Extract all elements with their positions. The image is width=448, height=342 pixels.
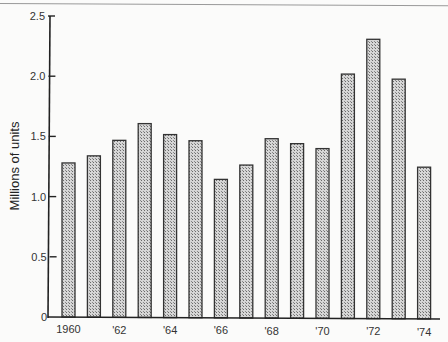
bar-1961 [87,156,100,317]
bar-1974 [418,167,431,319]
bar-1970 [316,149,329,319]
bar-1972 [367,39,380,318]
y-tick-label: 1.0 [31,191,46,203]
bar-1966 [214,179,227,317]
bar-1971 [341,74,354,318]
x-tick-label: '70 [315,325,329,337]
y-axis-label: Millions of units [7,121,22,210]
bar-1973 [392,79,405,319]
x-tick-label: '62 [112,324,126,336]
x-axis: 1960'62'64'66'68'70'72'74 [48,317,440,338]
bar-1960 [62,163,75,317]
x-tick-label: '64 [163,324,177,336]
y-tick-label: 2.0 [30,70,45,82]
x-tick-label: '66 [214,324,228,336]
y-tick-label: 2.5 [30,10,45,22]
y-tick-label: 0.5 [31,251,46,263]
bar-1969 [291,144,304,319]
bar-1962 [113,140,126,317]
x-tick-label: '74 [417,326,431,338]
bar-1964 [164,135,177,318]
y-axis-line [48,16,50,318]
bar-chart: 00.51.01.52.02.5 1960'62'64'66'68'70'72'… [0,0,448,342]
y-axis: 00.51.01.52.02.5 [30,10,57,323]
x-tick-label: '68 [265,325,279,337]
bar-1967 [240,165,253,318]
bar-1968 [265,139,278,318]
bar-1963 [138,124,151,318]
x-tick-label: '72 [366,325,380,337]
y-tick-label: 0 [41,311,47,323]
x-tick-label: 1960 [56,323,80,335]
x-axis-line [48,317,440,319]
y-tick-label: 1.5 [31,130,46,142]
bar-1965 [189,141,202,318]
bars [62,39,431,319]
